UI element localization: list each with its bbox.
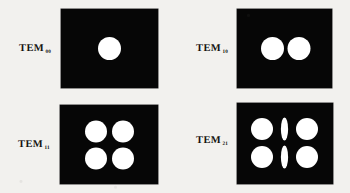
mode-panel-tem10 — [237, 9, 332, 88]
mode-label-subscript: 21 — [223, 141, 228, 147]
mode-lobe — [112, 148, 134, 170]
mode-lobe — [288, 37, 311, 60]
mode-label-tem11: TEM11 — [18, 140, 48, 151]
mode-pattern-tem10 — [237, 9, 332, 88]
mode-lobe — [251, 118, 273, 140]
mode-label-text: TEM — [196, 43, 221, 54]
mode-lobe — [112, 121, 134, 143]
mode-label-tem10: TEM10 — [196, 44, 227, 55]
mode-lobe — [85, 148, 107, 170]
mode-panel-tem21 — [237, 103, 333, 184]
mode-panel-tem11 — [60, 105, 158, 184]
mode-panel-tem00 — [61, 9, 158, 88]
mode-label-subscript: 11 — [45, 145, 50, 151]
mode-label-tem00: TEM00 — [19, 44, 50, 55]
mode-label-tem21: TEM21 — [196, 136, 227, 147]
mode-lobe — [251, 146, 273, 168]
mode-lobe — [85, 121, 107, 143]
mode-lobe — [98, 37, 121, 60]
mode-lobe — [261, 37, 284, 60]
mode-pattern-tem11 — [60, 105, 158, 184]
mode-pattern-tem21 — [237, 103, 333, 184]
mode-pattern-tem00 — [61, 9, 158, 88]
mode-label-text: TEM — [18, 139, 43, 150]
mode-label-text: TEM — [196, 135, 221, 146]
mode-label-subscript: 10 — [223, 49, 228, 55]
mode-lobe — [281, 118, 288, 141]
mode-lobe — [281, 146, 288, 169]
mode-lobe — [296, 146, 318, 168]
tem-mode-figure: TEM00 TEM10 TEM11 TEM21 — [0, 0, 350, 193]
mode-label-subscript: 00 — [46, 49, 51, 55]
mode-label-text: TEM — [19, 43, 44, 54]
mode-lobe — [296, 118, 318, 140]
